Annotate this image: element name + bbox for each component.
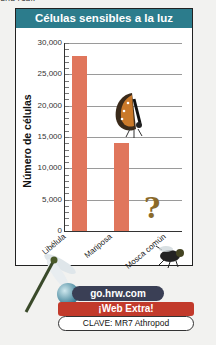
minor-tick xyxy=(65,200,69,201)
chart-title: Células sensibles a la luz xyxy=(16,9,192,28)
minor-tick xyxy=(65,56,69,57)
minor-tick xyxy=(65,225,69,226)
x-axis xyxy=(64,231,182,232)
y-axis xyxy=(64,43,65,231)
unknown-value-marker: ? xyxy=(144,192,160,225)
minor-tick xyxy=(65,212,69,213)
minor-tick xyxy=(65,81,69,82)
y-axis-label: Número de células xyxy=(21,86,33,196)
minor-tick xyxy=(65,118,69,119)
minor-tick xyxy=(65,93,69,94)
minor-tick xyxy=(65,62,69,63)
minor-tick xyxy=(65,137,69,138)
minor-tick xyxy=(65,218,69,219)
minor-tick xyxy=(65,112,69,113)
butterfly-icon xyxy=(110,89,150,141)
minor-tick xyxy=(65,181,69,182)
minor-tick xyxy=(65,49,69,50)
minor-tick xyxy=(65,175,69,176)
minor-tick xyxy=(65,74,69,75)
minor-tick xyxy=(65,43,69,44)
minor-tick xyxy=(65,156,69,157)
minor-tick xyxy=(65,106,69,107)
minor-tick xyxy=(65,168,69,169)
y-tick: 25,000 xyxy=(38,69,62,78)
bar-mariposa xyxy=(114,143,129,231)
minor-tick xyxy=(65,187,69,188)
minor-tick xyxy=(65,68,69,69)
minor-tick xyxy=(65,87,69,88)
minor-tick xyxy=(65,143,69,144)
minor-tick xyxy=(65,193,69,194)
y-tick: 30,000 xyxy=(38,38,62,47)
minor-tick xyxy=(65,206,69,207)
minor-tick xyxy=(65,124,69,125)
keyword-box: CLAVE: MR7 Athropod xyxy=(58,316,194,331)
y-tick: 10,000 xyxy=(38,163,62,172)
minor-tick xyxy=(65,162,69,163)
chart-frame: Células sensibles a la luz Número de cél… xyxy=(15,8,193,266)
housefly-icon xyxy=(154,244,186,268)
bar-libelula xyxy=(72,56,87,231)
y-tick: 5,000 xyxy=(42,195,62,204)
web-extra-banner: ¡Web Extra! xyxy=(58,302,194,316)
minor-tick xyxy=(65,150,69,151)
minor-tick xyxy=(65,99,69,100)
minor-tick xyxy=(65,131,69,132)
y-tick: 15,000 xyxy=(38,132,62,141)
cut-off-text: una real. xyxy=(0,0,35,3)
y-tick: 20,000 xyxy=(38,101,62,110)
web-url[interactable]: go.hrw.com xyxy=(72,286,164,301)
gridline xyxy=(65,43,182,44)
